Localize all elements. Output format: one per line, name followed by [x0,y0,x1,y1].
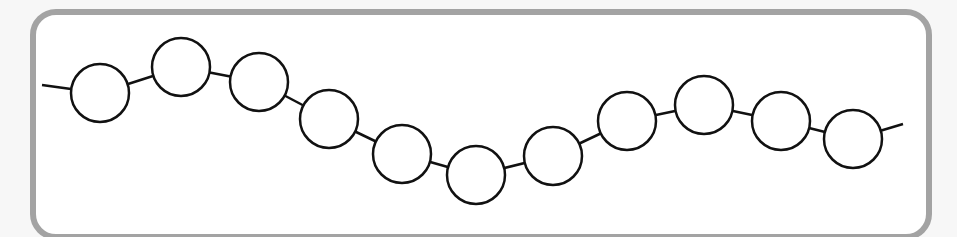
bead-chain-diagram [0,0,957,237]
bead-circle [230,53,288,111]
bead-circle [824,110,882,168]
bead-circle [675,76,733,134]
bead-circle [152,38,210,96]
bead-circle [300,90,358,148]
bead-circle [752,92,810,150]
bead-circle [524,127,582,185]
bead-circle [373,125,431,183]
bead-circle [598,92,656,150]
bead-circle [447,146,505,204]
bead-circle [71,64,129,122]
